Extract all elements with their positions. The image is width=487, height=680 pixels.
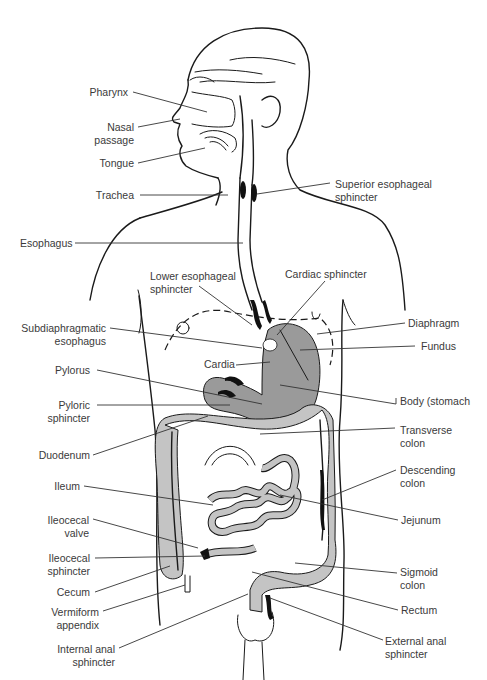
label-superior-esophageal-sphincter: Superior esophagealsphincter — [335, 178, 432, 203]
label-diaphragm: Diaphragm — [408, 317, 459, 330]
large-intestine — [155, 405, 336, 620]
label-cecum: Cecum — [10, 586, 90, 599]
label-ileocecal-valve: Ileocecalvalve — [10, 514, 89, 539]
pelvis-outline — [237, 612, 273, 680]
label-ileocecal-sphincter: Ileocecalsphincter — [10, 552, 90, 577]
label-pyloric-sphincter: Pyloricsphincter — [10, 399, 90, 424]
label-lower-esophageal-sphincter: Lower esophagealsphincter — [150, 270, 236, 295]
label-cardiac-sphincter: Cardiac sphincter — [285, 268, 367, 281]
label-sigmoid-colon: Sigmoidcolon — [400, 566, 438, 591]
label-jejunum: Jejunum — [401, 514, 441, 527]
label-esophagus: Esophagus — [20, 237, 73, 250]
label-tongue: Tongue — [62, 157, 134, 170]
label-nasal-passage: Nasalpassage — [62, 121, 134, 146]
label-body-stomach: Body (stomach — [400, 395, 470, 408]
label-pharynx: Pharynx — [62, 86, 128, 99]
label-descending-colon: Descendingcolon — [400, 464, 455, 489]
label-ileum: Ileum — [10, 480, 80, 493]
label-trachea: Trachea — [62, 189, 134, 202]
leader-lines — [75, 92, 415, 648]
label-external-anal-sphincter: External analsphincter — [385, 635, 446, 660]
label-pylorus: Pylorus — [10, 364, 90, 377]
small-intestine — [200, 446, 298, 560]
label-transverse-colon: Transversecolon — [400, 424, 452, 449]
label-duodenum: Duodenum — [10, 449, 90, 462]
label-cardia: Cardia — [204, 358, 235, 371]
esophagus — [238, 178, 272, 330]
label-vermiform-appendix: Vermiformappendix — [10, 606, 99, 631]
label-internal-anal-sphincter: Internal analsphincter — [10, 643, 115, 668]
label-subdiaphragmatic-esophagus: Subdiaphragmaticesophagus — [10, 322, 106, 347]
label-rectum: Rectum — [401, 604, 437, 617]
label-fundus: Fundus — [421, 340, 456, 353]
